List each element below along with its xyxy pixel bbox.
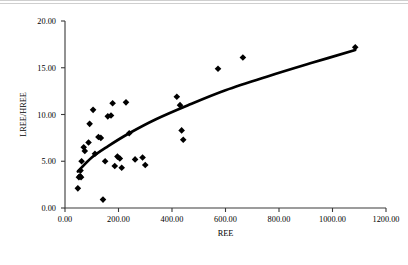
data-point-marker xyxy=(139,154,146,161)
data-point-marker xyxy=(100,196,107,203)
data-point-marker xyxy=(118,164,125,171)
data-point-marker xyxy=(109,100,116,107)
data-point-marker xyxy=(180,136,187,143)
data-point-marker xyxy=(90,107,97,114)
x-axis-title: REE xyxy=(218,229,234,238)
data-point-marker xyxy=(75,185,82,192)
data-point-marker xyxy=(102,158,109,165)
scatter-plot-svg: 0.00200.00400.00600.00800.001000.001200.… xyxy=(0,0,408,265)
data-point-marker xyxy=(85,139,92,146)
data-point-marker xyxy=(178,127,185,134)
chart-figure: 0.00200.00400.00600.00800.001000.001200.… xyxy=(0,0,408,265)
y-tick-label: 0.00 xyxy=(41,204,56,213)
figure-caption xyxy=(0,253,408,265)
x-tick-label: 1200.00 xyxy=(373,215,400,224)
x-tick-label: 800.00 xyxy=(268,215,291,224)
data-point-marker xyxy=(215,65,222,72)
data-point-marker xyxy=(240,54,247,61)
data-point-marker xyxy=(86,121,93,128)
data-point-marker xyxy=(111,163,118,170)
data-points-layer xyxy=(75,44,359,203)
data-point-marker xyxy=(174,93,181,100)
y-tick-label: 20.00 xyxy=(37,17,56,26)
x-tick-label: 200.00 xyxy=(107,215,130,224)
y-tick-label: 15.00 xyxy=(37,64,56,73)
data-point-marker xyxy=(132,156,139,163)
tick-label-layer: 0.00200.00400.00600.00800.001000.001200.… xyxy=(37,17,399,224)
data-point-marker xyxy=(77,167,84,174)
y-axis-title: LREE/HREE xyxy=(19,92,28,137)
x-tick-label: 400.00 xyxy=(161,215,184,224)
x-tick-label: 0.00 xyxy=(58,215,73,224)
data-point-marker xyxy=(123,99,130,106)
data-point-marker xyxy=(142,162,149,169)
y-tick-label: 10.00 xyxy=(37,111,56,120)
y-tick-label: 5.00 xyxy=(41,157,56,166)
x-tick-label: 1000.00 xyxy=(319,215,346,224)
x-tick-label: 600.00 xyxy=(214,215,237,224)
